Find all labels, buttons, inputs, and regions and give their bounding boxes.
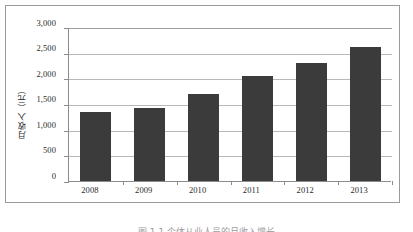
x-tick-label-2008: 2008 — [63, 186, 117, 195]
bar-2010 — [188, 94, 219, 181]
y-tick-label: 0 — [16, 172, 56, 180]
gridline-1500 — [69, 105, 392, 106]
figure: 月收入（元） 3,000 2,500 2,000 1,500 1,000 500… — [0, 0, 413, 232]
x-tick-mark — [231, 181, 232, 185]
bar-2008 — [80, 112, 111, 181]
gridline-2500 — [69, 54, 392, 55]
y-tick-mark — [64, 105, 69, 106]
y-tick-label: 1,500 — [16, 95, 56, 103]
y-tick-label: 2,000 — [16, 70, 56, 78]
x-tick-label-2012: 2012 — [278, 186, 332, 195]
bar-2012 — [296, 63, 327, 181]
y-tick-mark — [64, 54, 69, 55]
y-tick-mark — [64, 79, 69, 80]
plot-area — [68, 28, 391, 182]
y-tick-mark — [64, 156, 69, 157]
x-tick-mark — [392, 181, 393, 185]
y-tick-label: 500 — [16, 146, 56, 154]
chart-frame: 月收入（元） 3,000 2,500 2,000 1,500 1,000 500… — [5, 5, 400, 203]
bar-2011 — [242, 76, 273, 181]
y-tick-mark — [64, 131, 69, 132]
x-tick-mark — [284, 181, 285, 185]
figure-caption-text: 图 1-1 个体从业人员的月收入增长 — [138, 227, 275, 232]
x-tick-mark — [123, 181, 124, 185]
x-tick-label-2011: 2011 — [224, 186, 278, 195]
bar-2009 — [134, 108, 165, 181]
gridline-1000 — [69, 131, 392, 132]
x-tick-label-2010: 2010 — [171, 186, 225, 195]
x-tick-label-2013: 2013 — [332, 186, 386, 195]
y-tick-mark — [64, 182, 69, 183]
y-tick-mark — [64, 28, 69, 29]
y-tick-label: 3,000 — [16, 19, 56, 27]
x-tick-mark — [177, 181, 178, 185]
bar-2013 — [350, 47, 381, 181]
x-tick-mark — [338, 181, 339, 185]
x-tick-label-2009: 2009 — [117, 186, 171, 195]
figure-caption: 图 1-1 个体从业人员的月收入增长 — [0, 221, 413, 232]
gridline-3000 — [69, 28, 392, 29]
gridline-500 — [69, 156, 392, 157]
y-tick-label: 2,500 — [16, 44, 56, 52]
gridline-2000 — [69, 79, 392, 80]
y-tick-label: 1,000 — [16, 121, 56, 129]
